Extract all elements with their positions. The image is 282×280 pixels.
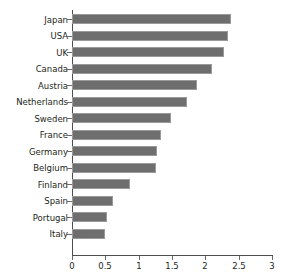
category-label: Portugal bbox=[33, 213, 68, 223]
bar bbox=[72, 146, 157, 156]
category-label: Italy bbox=[50, 229, 68, 239]
category-label: Sweden bbox=[34, 114, 68, 124]
category-label: USA bbox=[50, 31, 68, 41]
bar bbox=[72, 212, 107, 222]
category-label: Spain bbox=[44, 196, 68, 206]
x-axis-tick bbox=[272, 256, 273, 260]
category-label: Germany bbox=[29, 147, 68, 157]
category-label: Canada bbox=[36, 64, 68, 74]
category-label: Belgium bbox=[33, 163, 68, 173]
x-axis-tick bbox=[205, 256, 206, 260]
category-label: Netherlands bbox=[16, 97, 68, 107]
x-axis-tick-label: 0 bbox=[69, 261, 74, 271]
bar bbox=[72, 80, 197, 90]
x-axis-tick-label: 3 bbox=[269, 261, 274, 271]
x-axis-tick bbox=[172, 256, 173, 260]
bar bbox=[72, 196, 113, 206]
bar bbox=[72, 47, 224, 57]
category-label: Japan bbox=[44, 15, 68, 25]
bar bbox=[72, 64, 212, 74]
bar bbox=[72, 14, 231, 24]
x-axis-tick bbox=[105, 256, 106, 260]
x-axis-tick-label: 1 bbox=[136, 261, 141, 271]
x-axis-tick bbox=[239, 256, 240, 260]
bar bbox=[72, 113, 171, 123]
x-axis-tick-label: 1.5 bbox=[165, 261, 179, 271]
bar bbox=[72, 97, 187, 107]
bar bbox=[72, 163, 156, 173]
bar bbox=[72, 31, 228, 41]
x-axis-tick-label: 2 bbox=[202, 261, 207, 271]
x-axis-tick-label: 0.5 bbox=[98, 261, 112, 271]
bar bbox=[72, 130, 161, 140]
x-axis-tick bbox=[139, 256, 140, 260]
bar bbox=[72, 229, 105, 239]
category-label: France bbox=[40, 130, 68, 140]
bar-chart: JapanUSAUKCanadaAustriaNetherlandsSweden… bbox=[0, 0, 282, 280]
category-label: Austria bbox=[38, 81, 68, 91]
category-label: Finland bbox=[38, 180, 68, 190]
x-axis-tick bbox=[72, 256, 73, 260]
x-axis-tick-label: 2.5 bbox=[232, 261, 246, 271]
bar bbox=[72, 179, 130, 189]
